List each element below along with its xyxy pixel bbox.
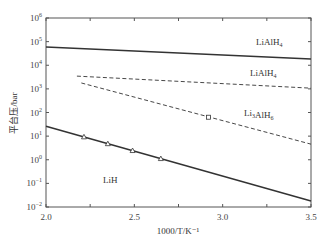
series-label-li3alh6: Li3AlH6 [244,108,274,121]
y-tick-label: 106 [30,12,42,23]
x-tick-label: 2.5 [129,212,141,222]
y-tick-label: 102 [30,107,42,118]
series-label-lialh4: LiAlH4 [256,37,283,48]
x-axis-title: 1000/T/K⁻¹ [157,226,200,236]
chart: 2.02.53.03.5 10610510410310210110010−110… [0,0,330,240]
series-label-lih: LiH [103,175,118,185]
y-axis-title: 平台压/bar [8,93,19,134]
square-marker [207,115,211,119]
y-tick-label: 10−2 [27,201,42,212]
series-line-li3alh6-dashed [81,83,311,144]
y-tick-label: 100 [30,154,42,165]
y-tick-label: 104 [30,59,42,70]
y-tick-label: 10−1 [27,177,42,188]
y-tick-label: 105 [30,36,42,47]
x-tick-label: 2.0 [40,212,52,222]
y-tick-label: 101 [30,130,42,141]
y-tick-label: 103 [30,83,42,94]
series-label-lialh4: LiAlH4 [250,68,277,79]
series-line-lialh4-solid [46,47,311,59]
x-tick-label: 3.0 [217,212,229,222]
series-labels: LiAlH4LiAlH4Li3AlH6LiH [103,37,283,185]
x-tick-label: 3.5 [305,212,317,222]
